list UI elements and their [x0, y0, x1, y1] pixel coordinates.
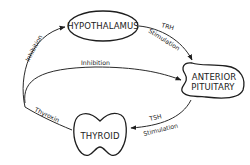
inhibition-hypothalamus-label: Inhibition	[24, 34, 44, 63]
node-hypothalamus: HYPOTHALAMUS	[67, 11, 139, 41]
thyroid-label: THYROID	[79, 131, 119, 141]
edge-trh: TRH Stimulation	[139, 21, 192, 60]
trh-stimulation-label: Stimulation	[147, 27, 181, 52]
anterior-label: ANTERIOR	[192, 72, 237, 82]
pituitary-label: PITUITARY	[191, 82, 235, 92]
hypothalamus-label: HYPOTHALAMUS	[67, 21, 139, 31]
node-thyroid: THYROID	[74, 114, 126, 156]
inhibition-pituitary-label: Inhibition	[81, 59, 110, 66]
edge-tsh: TSH Stimulation	[131, 100, 191, 137]
edge-inhibition-hypothalamus: Inhibition	[23, 27, 65, 107]
tsh-stimulation-label: Stimulation	[143, 122, 179, 137]
thyroid-feedback-diagram: Thyroxin Inhibition Inhibition TRH Stimu…	[0, 0, 250, 165]
edge-inhibition-pituitary: Inhibition	[25, 59, 181, 103]
trh-label: TRH	[160, 21, 175, 31]
edge-thyroxin: Thyroxin	[25, 105, 72, 130]
node-anterior-pituitary: ANTERIOR PITUITARY	[182, 63, 244, 98]
thyroxin-label: Thyroxin	[32, 105, 60, 124]
tsh-label: TSH	[148, 112, 163, 122]
